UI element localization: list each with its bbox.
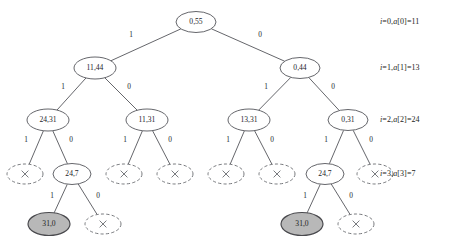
edge-label-0: 0 <box>96 191 100 200</box>
tree-edge <box>105 78 138 111</box>
edge-label-1: 1 <box>123 135 127 144</box>
edge-label-1: 1 <box>61 82 65 91</box>
edge-label-1: 1 <box>264 82 268 91</box>
tree-edge <box>78 184 97 215</box>
tree-edge <box>211 29 284 61</box>
tree-edge <box>307 184 320 213</box>
node-label: 31,0 <box>42 219 55 228</box>
edge-label-1: 1 <box>129 30 133 39</box>
edge-label-0: 0 <box>270 135 274 144</box>
node-label: 0,31 <box>341 115 354 124</box>
edge-label-1: 1 <box>24 135 28 144</box>
edge-label-1: 1 <box>303 191 307 200</box>
node-label: 24,7 <box>318 169 331 178</box>
edge-label-1: 1 <box>50 191 54 200</box>
node-label: 11,31 <box>139 115 156 124</box>
tree-svg-canvas: 101010101010101010 0,5511,440,4424,3111,… <box>0 0 471 249</box>
tree-node-solution[interactable]: 31,0 <box>281 213 323 236</box>
tree-edge <box>353 130 370 164</box>
tree-node[interactable]: 0,31 <box>328 110 368 131</box>
tree-node[interactable]: 0,44 <box>280 58 320 79</box>
node-label: 11,44 <box>87 63 104 72</box>
tree-node-solution[interactable]: 31,0 <box>28 213 70 236</box>
tree-node-pruned[interactable] <box>208 164 244 184</box>
edge-label-0: 0 <box>349 191 353 200</box>
decision-tree-diagram: 101010101010101010 0,5511,440,4424,3111,… <box>0 0 471 249</box>
tree-node-pruned[interactable] <box>106 164 142 184</box>
node-label: 13,31 <box>240 115 257 124</box>
nodes-layer: 0,5511,440,4424,3111,3113,310,3124,724,7… <box>7 12 393 236</box>
tree-node-pruned[interactable] <box>338 214 374 234</box>
tree-node[interactable]: 11,44 <box>74 57 116 79</box>
level-label-1: i=1,a[1]=13 <box>380 63 420 72</box>
level-label-0: i=0,a[0]=11 <box>380 17 419 26</box>
edge-label-0: 0 <box>369 135 373 144</box>
level-label-3: i=3,a[3]=7 <box>380 169 416 178</box>
level-label-2: i=2,a[2]=24 <box>380 115 420 124</box>
node-label: 0,44 <box>293 63 306 72</box>
edge-label-0: 0 <box>69 135 73 144</box>
tree-node[interactable]: 24,7 <box>306 164 344 185</box>
tree-node[interactable]: 24,31 <box>27 109 69 131</box>
edge-label-1: 1 <box>226 135 230 144</box>
tree-node-pruned[interactable] <box>259 164 295 184</box>
edge-label-0: 0 <box>168 135 172 144</box>
tree-edge <box>128 131 142 165</box>
tree-node-pruned[interactable] <box>85 214 121 234</box>
tree-node[interactable]: 0,55 <box>176 12 216 33</box>
tree-node[interactable]: 13,31 <box>228 109 270 131</box>
tree-edge <box>29 131 43 165</box>
tree-node-pruned[interactable] <box>157 164 193 184</box>
tree-edge <box>331 184 350 215</box>
node-label: 0,55 <box>189 17 202 26</box>
node-label: 24,7 <box>65 169 78 178</box>
edge-label-0: 0 <box>331 82 335 91</box>
edge-label-0: 0 <box>258 30 262 39</box>
edges-layer <box>29 29 370 215</box>
tree-node[interactable]: 11,31 <box>126 109 168 131</box>
node-label: 24,31 <box>39 115 56 124</box>
edge-label-1: 1 <box>324 135 328 144</box>
node-label: 31,0 <box>295 219 308 228</box>
tree-edge <box>53 131 68 164</box>
edge-label-0: 0 <box>127 82 131 91</box>
tree-node-pruned[interactable] <box>7 164 43 184</box>
tree-node[interactable]: 24,7 <box>53 164 91 185</box>
tree-edge <box>230 131 244 165</box>
tree-edge <box>111 29 181 61</box>
tree-edge <box>54 184 67 213</box>
tree-edge <box>329 130 343 164</box>
